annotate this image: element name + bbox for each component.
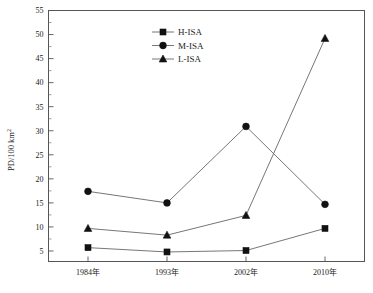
y-tick-label: 30 <box>36 127 44 136</box>
y-tick-label: 35 <box>36 103 44 112</box>
marker-square <box>322 225 328 231</box>
svg-text:PD/100 km2: PD/100 km2 <box>6 129 16 171</box>
marker-square <box>160 29 166 35</box>
y-axis-title-text: PD/100 km <box>6 132 16 171</box>
legend-label: H-ISA <box>178 27 202 37</box>
x-tick-label: 1984年 <box>76 267 100 277</box>
y-axis-title: PD/100 km2 <box>6 129 16 171</box>
y-tick-label: 50 <box>36 30 44 39</box>
y-tick-label: 5 <box>40 247 44 256</box>
line-chart: 510152025303540455055 1984年1993年2002年201… <box>0 0 373 293</box>
y-tick-label: 55 <box>36 6 44 15</box>
y-tick-label: 45 <box>36 54 44 63</box>
x-tick-label: 2010年 <box>313 267 337 277</box>
y-tick-label: 40 <box>36 78 44 87</box>
marker-circle <box>160 42 167 49</box>
marker-square <box>164 249 170 255</box>
marker-square <box>243 248 249 254</box>
chart-container: 510152025303540455055 1984年1993年2002年201… <box>0 0 373 293</box>
y-tick-label: 15 <box>36 199 44 208</box>
x-tick-label: 1993年 <box>155 267 179 277</box>
x-tick-label: 2002年 <box>234 267 258 277</box>
marker-circle <box>85 188 92 195</box>
marker-square <box>85 245 91 251</box>
y-tick-label: 20 <box>36 175 44 184</box>
legend-label: L-ISA <box>178 54 201 64</box>
marker-circle <box>243 123 250 130</box>
chart-legend: H-ISAM-ISAL-ISA <box>152 27 204 64</box>
y-tick-label: 25 <box>36 151 44 160</box>
legend-label: M-ISA <box>178 41 204 51</box>
marker-circle <box>322 201 329 208</box>
y-tick-label: 10 <box>36 223 44 232</box>
y-axis-title-superscript: 2 <box>6 129 12 132</box>
marker-circle <box>164 200 171 207</box>
